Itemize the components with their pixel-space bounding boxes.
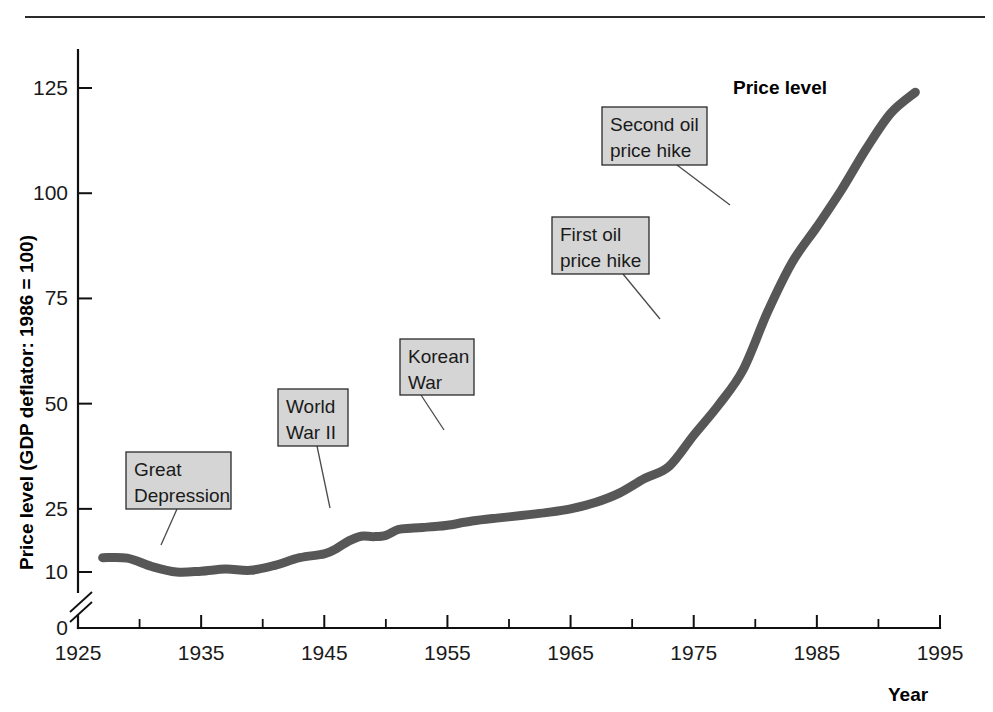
- y-tick-label: 25: [45, 497, 68, 520]
- callout-label-world-war-ii: War II: [286, 422, 336, 443]
- callout-leader-line-great-depression: [161, 509, 177, 545]
- y-tick-label: 75: [45, 286, 68, 309]
- y-axis-title: Price level (GDP deflator: 1986 = 100): [16, 235, 37, 570]
- callout-label-great-depression: Depression: [134, 485, 230, 506]
- y-tick-label: 10: [45, 560, 68, 583]
- callout-leader-line-world-war-ii: [317, 446, 330, 508]
- x-tick-label: 1985: [793, 641, 840, 664]
- x-tick-label: 1935: [178, 641, 225, 664]
- callout-world-war-ii: WorldWar II: [278, 389, 348, 508]
- callout-first-oil-price-hike: First oilprice hike: [552, 217, 660, 319]
- x-tick-label: 1975: [670, 641, 717, 664]
- x-axis-title: Year: [888, 684, 929, 705]
- y-tick-label: 100: [33, 181, 68, 204]
- x-tick-label: 1955: [424, 641, 471, 664]
- y-tick-label: 50: [45, 392, 68, 415]
- callout-korean-war: KoreanWar: [400, 339, 474, 430]
- callout-second-oil-price-hike: Second oilprice hike: [602, 107, 730, 205]
- x-tick-label: 1995: [917, 641, 964, 664]
- callout-leader-line-korean-war: [421, 395, 444, 430]
- x-tick-label: 1965: [547, 641, 594, 664]
- x-axis-ticks: 19251935194519551965197519851995: [55, 615, 964, 664]
- y-axis-ticks: 010255075100125: [33, 76, 92, 639]
- y-tick-label: 125: [33, 76, 68, 99]
- callout-label-second-oil-price-hike: Second oil: [610, 114, 699, 135]
- callout-leader-line-second-oil-price-hike: [677, 165, 730, 205]
- callout-label-great-depression: Great: [134, 459, 182, 480]
- price-level-line-chart: Price level (GDP deflator: 1986 = 100) Y…: [0, 0, 993, 712]
- y-tick-label: 0: [56, 616, 68, 639]
- x-tick-label: 1925: [55, 641, 102, 664]
- callout-label-second-oil-price-hike: price hike: [610, 140, 691, 161]
- callout-leader-line-first-oil-price-hike: [623, 274, 660, 319]
- callout-label-korean-war: War: [408, 372, 443, 393]
- y-axis-break-slash-2: [70, 602, 92, 622]
- chart-figure: Price level (GDP deflator: 1986 = 100) Y…: [0, 0, 993, 712]
- callout-label-first-oil-price-hike: First oil: [560, 224, 621, 245]
- callout-label-first-oil-price-hike: price hike: [560, 250, 641, 271]
- callout-label-korean-war: Korean: [408, 346, 469, 367]
- callout-label-world-war-ii: World: [286, 396, 335, 417]
- callout-great-depression: GreatDepression: [126, 452, 231, 545]
- x-tick-label: 1945: [301, 641, 348, 664]
- series-label-price-level: Price level: [733, 77, 827, 98]
- axes: [70, 50, 940, 628]
- y-axis-break-slash-1: [70, 592, 92, 612]
